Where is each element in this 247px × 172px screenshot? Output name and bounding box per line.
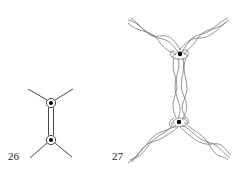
figure-26 (28, 89, 73, 158)
braid-top-left (128, 18, 181, 55)
arm-top-left (28, 89, 47, 100)
braid-bottom-left (128, 122, 178, 163)
braid-bottom-right (180, 122, 231, 160)
arm-bottom-right (55, 143, 72, 157)
arm-top-right (55, 89, 73, 100)
vertex-dot-bottom (49, 138, 53, 142)
arm-bottom-left (30, 143, 47, 158)
braid-top-right (179, 18, 229, 55)
vertex-dot-top (49, 101, 53, 105)
figure-label-27: 27 (112, 151, 123, 162)
figure-label-26: 26 (8, 151, 19, 162)
diagram-canvas (0, 0, 247, 172)
vertex-dot-top (178, 52, 182, 56)
vertex-dot-bottom (177, 120, 181, 124)
braid-vertical (173, 58, 187, 118)
figure-27 (128, 18, 231, 163)
